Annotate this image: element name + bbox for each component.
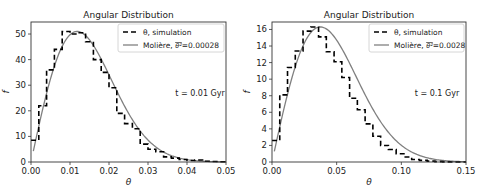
y-tick-label: 16 bbox=[256, 24, 267, 34]
legend: θ, simulationMolière, θ²=0.00028 bbox=[118, 24, 224, 52]
x-tick-label: 0.04 bbox=[178, 166, 197, 176]
y-tick-label: 0 bbox=[262, 157, 267, 167]
x-tick-label: 0.02 bbox=[100, 166, 119, 176]
x-tick-label: 0.00 bbox=[263, 166, 282, 176]
legend-suffix: =0.00028 bbox=[182, 41, 220, 50]
x-axis-label: θ bbox=[126, 177, 132, 187]
y-tick-label: 12 bbox=[256, 58, 267, 68]
y-tick-label: 4 bbox=[262, 124, 267, 134]
y-tick-label: 6 bbox=[262, 107, 267, 117]
chart-title: Angular Distribution bbox=[83, 10, 173, 20]
legend: θ, simulationMolière, θ²=0.0028 bbox=[369, 24, 466, 52]
y-tick-label: 40 bbox=[15, 55, 26, 65]
y-tick-label: 20 bbox=[15, 106, 26, 116]
x-tick-label: 0.03 bbox=[139, 166, 158, 176]
y-tick-label: 2 bbox=[262, 140, 267, 150]
x-axis-label: θ bbox=[366, 177, 372, 187]
y-tick-label: 14 bbox=[256, 41, 267, 51]
time-annotation: t = 0.1 Gyr bbox=[415, 89, 460, 98]
subplot-2: Angular Distribution0.000.050.100.150246… bbox=[242, 10, 475, 187]
y-tick-label: 0 bbox=[21, 157, 26, 167]
legend-label-moliere: Molière, θ²=0.0028 bbox=[394, 41, 466, 50]
y-tick-label: 30 bbox=[15, 80, 26, 90]
legend-label-simulation: θ, simulation bbox=[394, 28, 443, 37]
legend-prefix: Molière, bbox=[394, 41, 426, 50]
figure: Angular Distribution0.000.010.020.030.04… bbox=[0, 0, 482, 192]
y-tick-label: 10 bbox=[256, 74, 267, 84]
x-tick-label: 0.05 bbox=[327, 166, 346, 176]
x-tick-label: 0.05 bbox=[217, 166, 236, 176]
subplot-1: Angular Distribution0.000.010.020.030.04… bbox=[1, 10, 235, 187]
x-tick-label: 0.15 bbox=[457, 166, 476, 176]
legend-label-moliere: Molière, θ²=0.00028 bbox=[143, 41, 219, 50]
y-tick-label: 8 bbox=[262, 91, 267, 101]
time-annotation: t = 0.01 Gyr bbox=[175, 89, 225, 98]
x-tick-label: 0.10 bbox=[392, 166, 411, 176]
chart-title: Angular Distribution bbox=[324, 10, 414, 20]
x-tick-label: 0.00 bbox=[22, 166, 41, 176]
y-axis-label: f bbox=[1, 89, 11, 94]
x-tick-label: 0.01 bbox=[61, 166, 80, 176]
y-tick-label: 10 bbox=[15, 131, 26, 141]
y-tick-label: 50 bbox=[15, 29, 26, 39]
y-axis-label: f bbox=[242, 89, 252, 94]
legend-label-simulation: θ, simulation bbox=[143, 28, 192, 37]
legend-suffix: =0.0028 bbox=[433, 41, 466, 50]
legend-prefix: Molière, bbox=[143, 41, 175, 50]
